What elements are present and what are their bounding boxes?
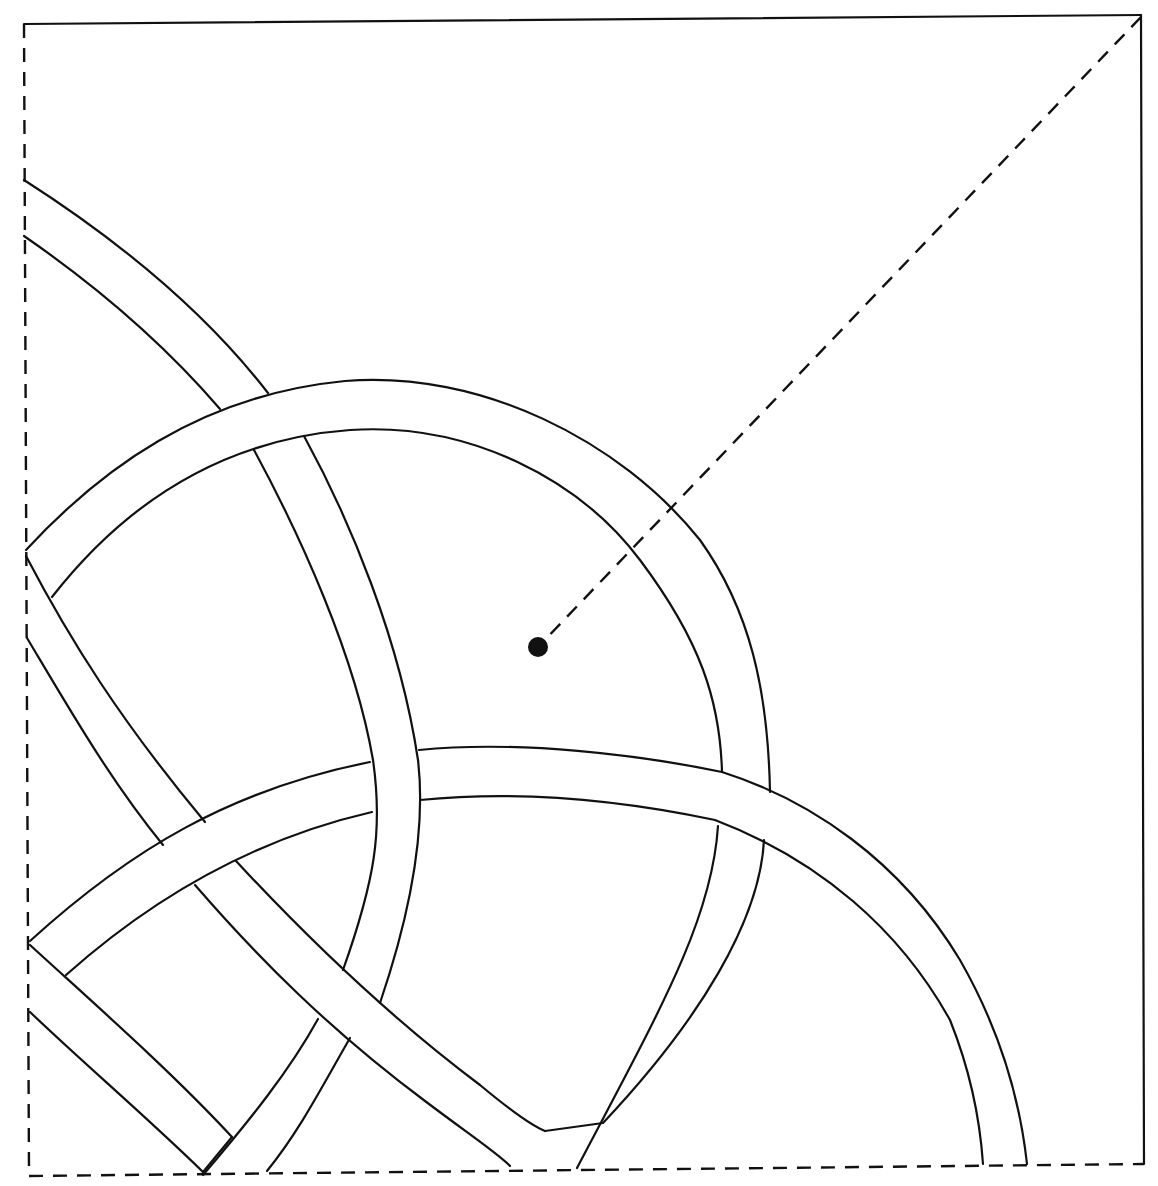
quilt-block-diagram <box>0 0 1158 1186</box>
band-edge <box>66 812 372 975</box>
band-edge <box>545 840 764 1131</box>
band-top-left-diagonal <box>24 180 420 1175</box>
band-edge <box>30 1012 203 1172</box>
band-edge <box>419 747 1027 1164</box>
band-edge <box>267 1038 350 1171</box>
band-edge <box>30 762 370 941</box>
center-dot <box>528 637 548 657</box>
band-edge <box>203 1137 232 1172</box>
band-edge <box>304 436 420 1003</box>
band-lower-arc <box>30 747 1027 1164</box>
border-top <box>24 15 1141 24</box>
band-edge <box>24 236 220 409</box>
band-edge <box>254 450 377 970</box>
band-edge <box>236 861 545 1131</box>
band-edge <box>195 885 510 1166</box>
band-bottom-left <box>30 945 232 1172</box>
border-right <box>1141 15 1144 1164</box>
band-edge <box>420 796 983 1164</box>
band-edge <box>24 180 268 393</box>
band-upper-circle <box>26 380 770 1168</box>
border-left-dashed <box>24 24 29 1176</box>
band-left-descending <box>26 556 545 1166</box>
band-edge <box>577 826 718 1168</box>
diagonal-fold-line <box>540 17 1141 645</box>
band-edge <box>52 429 722 772</box>
